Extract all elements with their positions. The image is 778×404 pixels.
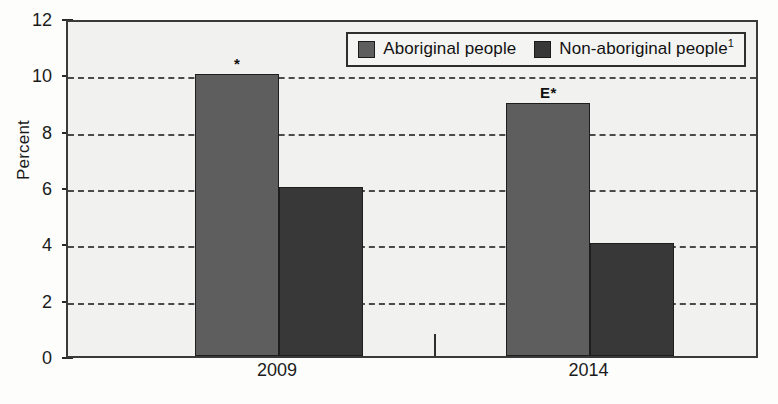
legend-swatch — [534, 41, 551, 58]
plot-area: *E* Aboriginal peopleNon-aboriginal peop… — [66, 20, 758, 358]
x-tick-label: 2014 — [568, 360, 608, 381]
y-tick-label: 8 — [42, 122, 52, 143]
y-tick-label: 4 — [42, 235, 52, 256]
legend-label-superscript: 1 — [728, 37, 734, 49]
y-tick-label: 0 — [42, 348, 52, 369]
legend-entry: Non-aboriginal people1 — [534, 39, 734, 59]
y-tick-label: 6 — [42, 179, 52, 200]
x-tick-label: 2009 — [257, 360, 297, 381]
y-tick-label: 10 — [32, 66, 52, 87]
legend-swatch — [358, 41, 375, 58]
bar-annotation: * — [234, 55, 240, 72]
bar-annotation: E* — [540, 84, 557, 101]
bar — [590, 243, 674, 356]
x-axis-labels: 20092014 — [66, 360, 758, 394]
category-separator-tick — [434, 334, 436, 356]
y-axis-ticks: 024681012 — [8, 20, 52, 358]
chart-legend: Aboriginal peopleNon-aboriginal people1 — [346, 32, 746, 67]
bar-group-container: *E* — [68, 22, 756, 356]
y-tick-label: 12 — [32, 10, 52, 31]
bar — [506, 103, 590, 357]
legend-label: Non-aboriginal people1 — [559, 39, 734, 59]
legend-entry: Aboriginal people — [358, 39, 516, 59]
bar — [195, 74, 279, 356]
bar — [279, 187, 363, 356]
chart-figure: Percent 024681012 *E* Aboriginal peopleN… — [0, 0, 778, 404]
y-tick-label: 2 — [42, 291, 52, 312]
legend-label: Aboriginal people — [383, 39, 516, 59]
